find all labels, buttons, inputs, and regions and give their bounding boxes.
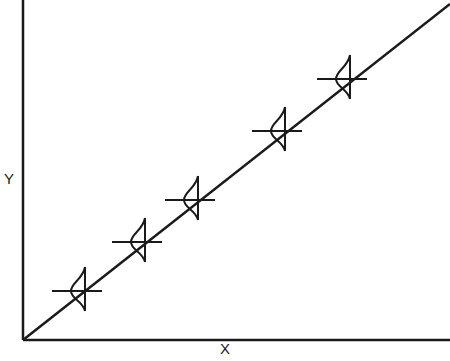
distribution-marker <box>52 267 102 311</box>
distribution-marker <box>252 107 302 151</box>
y-axis-label: Y <box>4 170 14 187</box>
x-axis-label: X <box>220 340 230 357</box>
distribution-marker <box>165 176 215 220</box>
regression-diagram <box>0 0 450 361</box>
distribution-marker <box>317 55 367 99</box>
regression-line <box>23 4 450 340</box>
distribution-marker <box>112 218 162 262</box>
distribution-markers <box>52 55 367 311</box>
